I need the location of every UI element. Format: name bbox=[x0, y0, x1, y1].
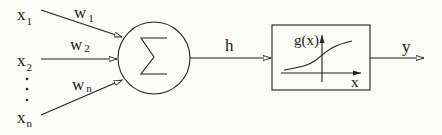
neuron-diagram: x1 w1 x2 w2 xn wn h g(x) x y bbox=[0, 0, 442, 135]
input-ellipsis bbox=[26, 78, 29, 102]
summation-circle bbox=[118, 22, 190, 94]
weight-wn-label: wn bbox=[72, 75, 92, 94]
input-x2-label: x2 bbox=[17, 51, 32, 73]
input-xn: xn bbox=[17, 108, 33, 129]
input-x1: x1 bbox=[17, 5, 32, 27]
weight-w1-label: w1 bbox=[74, 3, 94, 24]
weight-w2-label: w2 bbox=[70, 35, 90, 54]
activation-function-label: g(x) bbox=[294, 32, 319, 49]
input-x1-label: x1 bbox=[17, 5, 32, 27]
activation-box: g(x) x bbox=[272, 25, 370, 90]
summation-node bbox=[118, 22, 190, 94]
output-y-label: y bbox=[402, 37, 411, 56]
activation-axis-label: x bbox=[351, 74, 359, 90]
sigma-icon bbox=[141, 38, 167, 74]
input-x2: x2 bbox=[17, 51, 32, 73]
intermediate-h-label: h bbox=[225, 36, 234, 55]
input-xn-label: xn bbox=[17, 108, 33, 129]
